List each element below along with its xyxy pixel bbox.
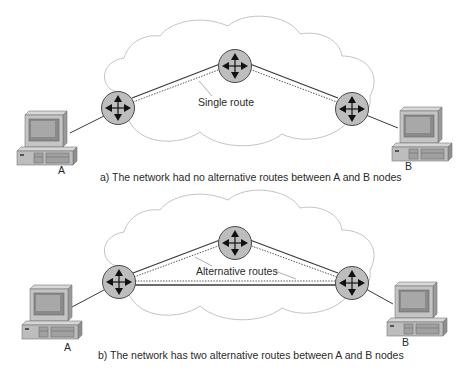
diagram-a: Single route A B a) The network had no a…: [17, 16, 452, 183]
computer-icon-a: [17, 111, 77, 165]
route-label: Alternative routes: [196, 265, 278, 277]
node-a-label: A: [58, 164, 65, 176]
router-icon-right: [336, 267, 369, 300]
router-icon-left: [103, 266, 136, 299]
router-icon-left: [102, 92, 135, 125]
link-router-to-b: [366, 115, 398, 128]
router-icon-top: [219, 227, 252, 260]
link-a-to-router: [70, 116, 104, 133]
node-b-label: B: [405, 160, 412, 172]
diagram-b: Alternative routes A B b) The network ha…: [22, 190, 447, 361]
link-a-to-router: [72, 290, 104, 307]
node-a-label: A: [64, 341, 71, 353]
node-b-label: B: [402, 336, 409, 348]
computer-icon-b: [392, 107, 452, 161]
computer-icon-a: [22, 285, 82, 339]
network-diagram-canvas: Single route A B a) The network had no a…: [0, 0, 472, 376]
router-icon-right: [336, 93, 369, 126]
caption-b: b) The network has two alternative route…: [98, 349, 404, 361]
caption-a: a) The network had no alternative routes…: [100, 171, 402, 183]
router-icon-top: [219, 50, 252, 83]
route-label: Single route: [198, 96, 254, 108]
link-router-to-b: [366, 289, 393, 304]
computer-icon-b: [387, 282, 447, 336]
